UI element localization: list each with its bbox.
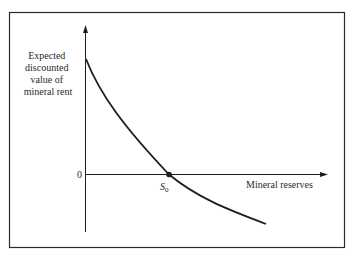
- s0-point: [166, 172, 172, 178]
- y-axis-label: Expected discounted value of mineral ren…: [24, 50, 73, 97]
- x-axis-arrow-icon: [320, 172, 328, 177]
- figure-frame: [10, 13, 345, 248]
- origin-label: 0: [77, 169, 82, 180]
- s0-label: S0: [160, 181, 169, 194]
- rent-curve: [86, 59, 266, 224]
- x-axis-label: Mineral reserves: [246, 179, 313, 190]
- diagram-figure: Expected discounted value of mineral ren…: [0, 0, 353, 257]
- y-axis-arrow-icon: [83, 25, 88, 33]
